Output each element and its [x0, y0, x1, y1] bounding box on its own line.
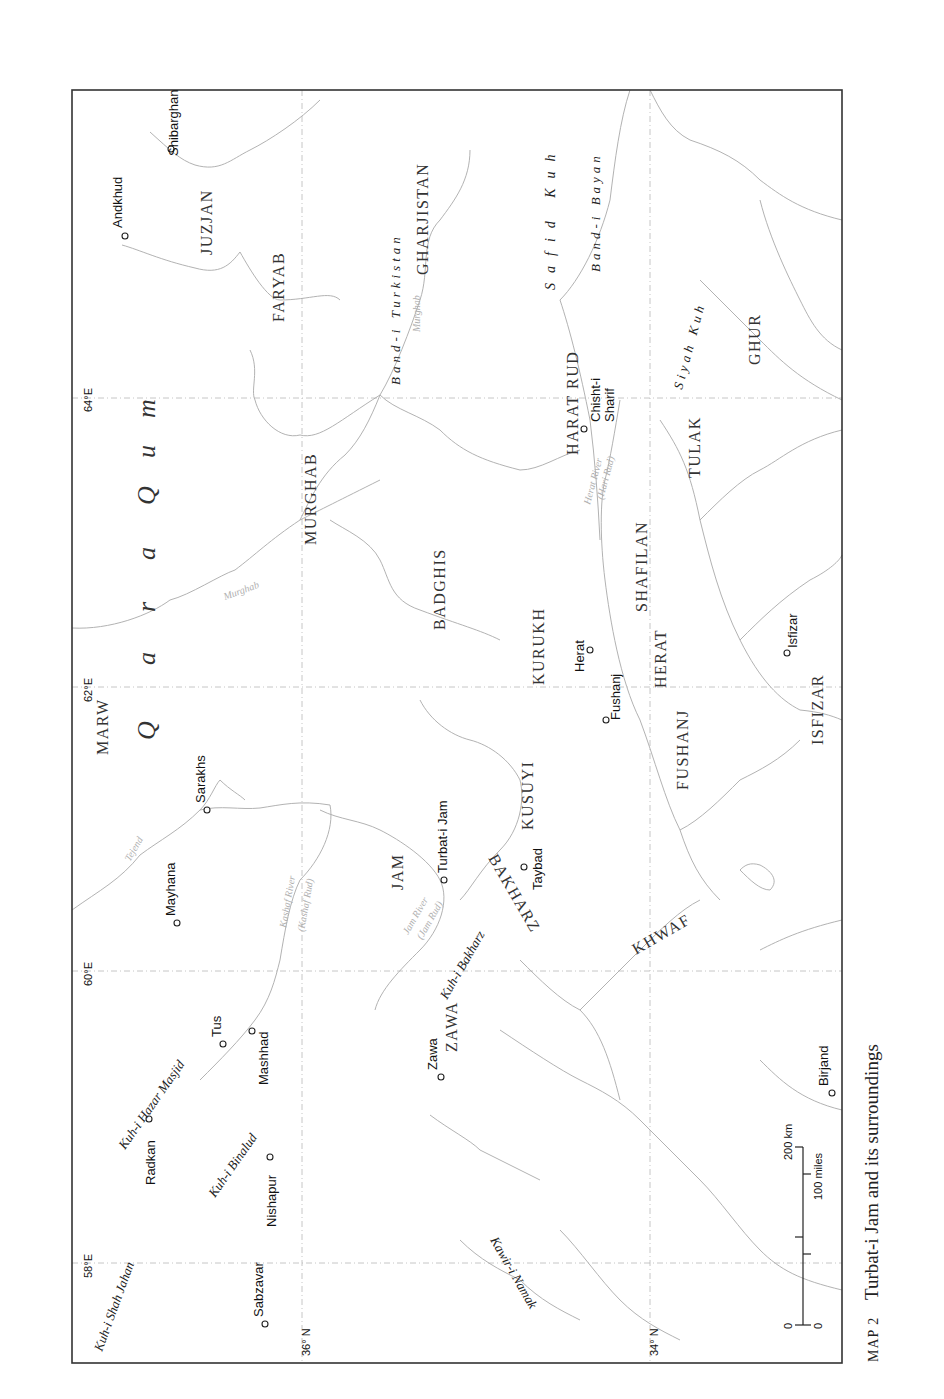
mountain-kuh-i-binalud: Kuh-i Binalud — [205, 1130, 261, 1200]
svg-text:m: m — [132, 399, 161, 418]
mountain-siyah-kuh: Siyah Kuh — [670, 300, 708, 391]
caption-title: Turbat-i Jam and its surroundings — [861, 1044, 882, 1300]
town-fushanj: Fushanj — [608, 674, 623, 720]
svg-text:u: u — [132, 445, 161, 458]
town-dot-sabzavar — [262, 1321, 268, 1327]
town-dot-turbat-i-jam — [441, 877, 447, 883]
region-isfizar: ISFIZAR — [809, 674, 826, 745]
town-taybad: Taybad — [530, 848, 545, 890]
region-harat-rud: HARAT RUD — [564, 351, 581, 455]
town-dot-taybad — [521, 864, 527, 870]
mountain-kuh-i-hazar-masjid: Kuh-i Hazar Masjid — [115, 1057, 188, 1153]
scale-zero-km: 0 — [782, 1323, 794, 1329]
mountain-band-i-bayan: Band-i Bayan — [588, 152, 603, 272]
town-andkhud: Andkhud — [110, 177, 125, 228]
region-jam: JAM — [389, 853, 406, 890]
region-faryab: FARYAB — [270, 252, 287, 322]
label-62E: 62°E — [82, 678, 94, 702]
label-36N: 36° N — [300, 1328, 312, 1356]
region-herat: HERAT — [652, 629, 669, 688]
svg-text:Q: Q — [132, 721, 161, 740]
river-label-kashaf-rud: (Kashaf Rud) — [295, 877, 316, 933]
town-dot-herat — [587, 647, 593, 653]
towns: Andkhud Shibarghan Sarakhs Mayhana Tus M… — [110, 90, 835, 1328]
mountain-kuh-i-bakharz: Kuh-i Bakharz — [436, 928, 488, 1002]
mountain-kawir-i-namak: Kawir-i Namak — [487, 1233, 541, 1311]
river-label-kashaf-river: Kashaf River — [277, 875, 297, 930]
town-dot-zawa — [438, 1074, 444, 1080]
town-dot-isfizar — [784, 650, 790, 656]
scale-zero-miles: 0 — [812, 1323, 824, 1329]
svg-text:a: a — [132, 547, 161, 560]
town-dot-chisht-i-sharif — [581, 426, 587, 432]
mountain-safid-kuh: Safid Kuh — [543, 144, 558, 290]
town-mayhana: Mayhana — [163, 862, 178, 916]
town-sharif: Sharif — [602, 388, 617, 422]
town-herat: Herat — [572, 640, 587, 672]
town-sarakhs: Sarakhs — [193, 755, 208, 803]
region-ghur: GHUR — [746, 314, 763, 365]
desert-label-qara-qum: Q a r a Q u m — [132, 399, 161, 740]
svg-text:r: r — [132, 601, 161, 612]
region-murghab: MURGHAB — [302, 453, 319, 545]
river-label-murghab-upper: Murghab — [411, 295, 422, 333]
town-dot-mayhana — [174, 920, 180, 926]
mountain-kuh-i-shah-jahan: Kuh-i Shah Jahan — [90, 1260, 137, 1354]
mountain-band-i-turkistan: Band-i Turkistan — [388, 233, 403, 385]
map: 64°E 62°E 60°E 58°E 36° N 34° N Q a r a … — [0, 0, 944, 1399]
region-badghis: BADGHIS — [431, 548, 448, 630]
town-birjand: Birjand — [816, 1046, 831, 1086]
town-tus: Tus — [209, 1015, 224, 1037]
graticule — [72, 90, 842, 1363]
region-juzjan: JUZJAN — [198, 189, 215, 255]
town-isfizar: Isfizar — [785, 613, 800, 648]
map-caption: MAP 2 Turbat-i Jam and its surroundings — [861, 1044, 882, 1362]
scale-100miles: 100 miles — [812, 1152, 824, 1200]
label-34N: 34° N — [648, 1328, 660, 1356]
town-zawa: Zawa — [425, 1037, 440, 1070]
town-mashhad: Mashhad — [256, 1032, 271, 1085]
town-shibarghan: Shibarghan — [166, 90, 181, 157]
town-sabzavar: Sabzavar — [251, 1261, 266, 1317]
map-frame — [72, 90, 842, 1363]
town-nishapur: Nishapur — [264, 1174, 279, 1227]
region-tulak: TULAK — [686, 416, 703, 478]
town-dot-nishapur — [267, 1154, 273, 1160]
town-radkan: Radkan — [143, 1140, 158, 1185]
scale-200km: 200 km — [782, 1124, 794, 1160]
river-label-tejend: Tejend — [122, 834, 145, 863]
town-chisht-i: Chisht-i — [588, 378, 603, 422]
town-dot-birjand — [829, 1090, 835, 1096]
river-label-murghab-lower: Murghab — [221, 579, 260, 602]
town-turbat-i-jam: Turbat-i Jam — [435, 801, 450, 873]
region-shafilan: SHAFILAN — [633, 521, 650, 612]
region-kusuyi: KUSUYI — [519, 761, 536, 830]
region-gharjistan: GHARJISTAN — [414, 163, 431, 275]
rivers — [72, 90, 842, 1340]
region-kurukh: KURUKH — [530, 608, 547, 685]
region-marw: MARW — [94, 698, 111, 755]
town-dot-andkhud — [122, 233, 128, 239]
label-64E: 64°E — [82, 388, 94, 412]
caption-prefix: MAP 2 — [866, 1317, 881, 1362]
scale-bar: 0 0 200 km 100 miles — [782, 1124, 824, 1329]
region-khwaf: KHWAF — [629, 911, 693, 958]
town-dot-tus — [220, 1041, 226, 1047]
label-58E: 58°E — [82, 1254, 94, 1278]
svg-text:Q: Q — [132, 486, 161, 505]
town-dot-mashhad — [249, 1028, 255, 1034]
svg-text:a: a — [132, 652, 161, 665]
town-dot-sarakhs — [204, 807, 210, 813]
region-fushanj: FUSHANJ — [674, 709, 691, 790]
mountain-labels: Band-i Turkistan Safid Kuh Band-i Bayan … — [90, 144, 708, 1354]
label-60E: 60°E — [82, 962, 94, 986]
region-zawa: ZAWA — [443, 1001, 460, 1052]
